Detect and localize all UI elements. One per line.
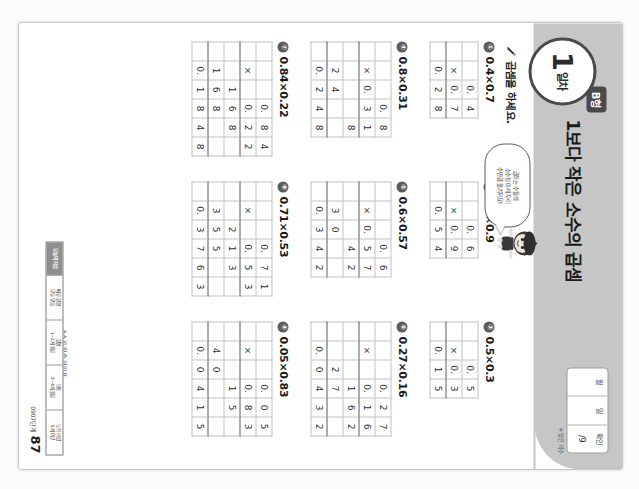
calc-cell[interactable]: 0.: [240, 379, 256, 398]
calc-cell[interactable]: 3: [446, 379, 462, 398]
calc-cell[interactable]: ×: [446, 201, 462, 220]
calc-cell[interactable]: [343, 80, 359, 99]
calc-cell[interactable]: 5: [208, 220, 224, 239]
vertical-calculation-grid[interactable]: 0.84×0.221681680.1848: [191, 41, 272, 156]
calc-cell[interactable]: [256, 322, 272, 341]
calc-cell[interactable]: 6: [359, 417, 375, 436]
calc-cell[interactable]: 7: [256, 258, 272, 277]
calc-cell[interactable]: 3: [327, 201, 343, 220]
calc-cell[interactable]: [343, 220, 359, 239]
calc-cell[interactable]: [240, 322, 256, 341]
calc-cell[interactable]: 0.: [256, 379, 272, 398]
calc-cell[interactable]: 5: [208, 239, 224, 258]
calc-cell[interactable]: [208, 398, 224, 417]
calc-cell[interactable]: [430, 182, 446, 201]
calc-cell[interactable]: 0.: [192, 61, 208, 80]
calc-cell[interactable]: 3: [224, 258, 240, 277]
calc-cell[interactable]: [208, 277, 224, 296]
vertical-calculation-grid[interactable]: 0.8×0.318240.248: [310, 41, 391, 137]
calc-cell[interactable]: [359, 182, 375, 201]
calc-cell[interactable]: [240, 182, 256, 201]
calc-cell[interactable]: 0.: [375, 379, 391, 398]
calc-cell[interactable]: 0.: [311, 341, 327, 360]
calc-cell[interactable]: 3: [311, 220, 327, 239]
calc-cell[interactable]: 2: [327, 61, 343, 80]
calc-cell[interactable]: [208, 322, 224, 341]
calc-cell[interactable]: [240, 360, 256, 379]
calc-cell[interactable]: 6: [208, 80, 224, 99]
vertical-calculation-grid[interactable]: 0.71×0.532133550.3763: [191, 181, 272, 296]
calc-cell[interactable]: [208, 379, 224, 398]
calc-cell[interactable]: 7: [446, 99, 462, 118]
calc-cell[interactable]: [375, 61, 391, 80]
calc-cell[interactable]: 2: [311, 80, 327, 99]
vertical-calculation-grid[interactable]: 0.5×0.30.15: [429, 321, 478, 398]
calc-cell[interactable]: ×: [446, 61, 462, 80]
calc-cell[interactable]: 4: [256, 137, 272, 156]
calc-cell[interactable]: [327, 341, 343, 360]
calc-cell[interactable]: [343, 61, 359, 80]
calc-cell[interactable]: [224, 61, 240, 80]
calc-cell[interactable]: 5: [224, 398, 240, 417]
calc-cell[interactable]: 0.: [430, 61, 446, 80]
calc-cell[interactable]: 8: [430, 99, 446, 118]
calc-cell[interactable]: 0.: [359, 220, 375, 239]
calc-cell[interactable]: [224, 42, 240, 61]
calc-cell[interactable]: ×: [240, 61, 256, 80]
calc-cell[interactable]: [208, 182, 224, 201]
calc-cell[interactable]: 0.: [446, 360, 462, 379]
calc-cell[interactable]: [256, 220, 272, 239]
calc-cell[interactable]: [256, 201, 272, 220]
calc-cell[interactable]: 3: [240, 277, 256, 296]
calc-cell[interactable]: [327, 398, 343, 417]
calc-cell[interactable]: 6: [343, 398, 359, 417]
calc-cell[interactable]: [327, 322, 343, 341]
calc-cell[interactable]: 0: [192, 360, 208, 379]
calc-cell[interactable]: 4: [311, 379, 327, 398]
calc-cell[interactable]: [327, 417, 343, 436]
calc-cell[interactable]: 0.: [375, 99, 391, 118]
calc-cell[interactable]: 3: [192, 277, 208, 296]
calc-cell[interactable]: [375, 341, 391, 360]
calc-cell[interactable]: 1: [430, 360, 446, 379]
calc-cell[interactable]: 8: [192, 99, 208, 118]
date-cell-month[interactable]: 월: [567, 368, 607, 396]
calc-cell[interactable]: [256, 61, 272, 80]
calc-cell[interactable]: [311, 322, 327, 341]
calc-cell[interactable]: 4: [462, 99, 478, 118]
calc-cell[interactable]: [359, 360, 375, 379]
calc-cell[interactable]: 6: [224, 99, 240, 118]
calc-cell[interactable]: [462, 42, 478, 61]
calc-cell[interactable]: [430, 322, 446, 341]
calc-cell[interactable]: 2: [430, 80, 446, 99]
calc-cell[interactable]: [359, 322, 375, 341]
calc-cell[interactable]: 0.: [311, 61, 327, 80]
calc-cell[interactable]: 1: [192, 80, 208, 99]
calc-cell[interactable]: [208, 417, 224, 436]
calc-cell[interactable]: [375, 322, 391, 341]
calc-cell[interactable]: 1: [359, 398, 375, 417]
calc-cell[interactable]: [240, 42, 256, 61]
calc-cell[interactable]: 2: [375, 398, 391, 417]
calc-cell[interactable]: 0.: [359, 80, 375, 99]
calc-cell[interactable]: 3: [359, 99, 375, 118]
calc-cell[interactable]: 4: [192, 379, 208, 398]
calc-cell[interactable]: [327, 118, 343, 137]
calc-cell[interactable]: ×: [359, 201, 375, 220]
calc-cell[interactable]: [343, 322, 359, 341]
calc-cell[interactable]: [446, 182, 462, 201]
calc-cell[interactable]: 1: [256, 277, 272, 296]
calc-cell[interactable]: 4: [343, 239, 359, 258]
calc-cell[interactable]: [327, 239, 343, 258]
calc-cell[interactable]: [224, 341, 240, 360]
calc-cell[interactable]: 0.: [375, 239, 391, 258]
calc-cell[interactable]: [446, 42, 462, 61]
calc-cell[interactable]: 8: [240, 398, 256, 417]
calc-cell[interactable]: [327, 182, 343, 201]
calc-cell[interactable]: 8: [192, 137, 208, 156]
calc-cell[interactable]: 3: [311, 398, 327, 417]
vertical-calculation-grid[interactable]: 0.05×0.8315400.0415: [191, 321, 272, 436]
calc-cell[interactable]: [224, 137, 240, 156]
calc-cell[interactable]: [192, 182, 208, 201]
calc-cell[interactable]: 0.: [462, 360, 478, 379]
